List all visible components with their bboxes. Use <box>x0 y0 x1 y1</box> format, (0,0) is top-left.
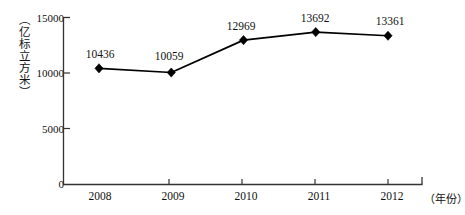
data-point-marker-2009 <box>167 68 175 77</box>
data-point-marker-2012 <box>384 31 392 40</box>
y-axis-ticks <box>64 73 71 129</box>
plot-area <box>0 0 465 215</box>
x-axis-ticks <box>169 179 388 185</box>
data-point-marker-2008 <box>95 64 103 73</box>
data-point-marker-2010 <box>239 36 247 45</box>
line-chart: （亿标立方米） 15000 10000 5000 0 2008 2009 201… <box>0 0 465 215</box>
series-markers <box>95 27 392 77</box>
data-point-marker-2011 <box>312 27 320 36</box>
